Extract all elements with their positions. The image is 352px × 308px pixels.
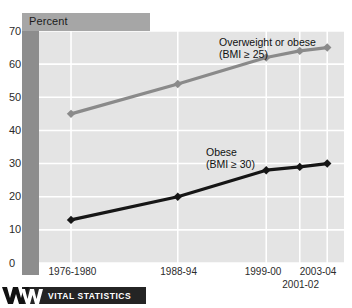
y-axis-tick-label: 50 — [9, 92, 39, 103]
y-axis-tick-label: 60 — [9, 59, 39, 70]
series-label-obese: Obese (BMI ≥ 30) — [206, 146, 255, 170]
chart-canvas — [39, 31, 344, 263]
y-axis-tick-label: 70 — [9, 26, 39, 37]
x-axis-tick-label: 1988-94 — [160, 266, 197, 277]
data-point-marker — [323, 159, 331, 167]
series-label-overweight-line1: Overweight or obese — [219, 36, 316, 48]
chart-figure: Percent 010203040506070 1976-19801988-94… — [0, 0, 352, 308]
y-axis-tick-label: 10 — [9, 224, 39, 235]
series-label-obese-line2: (BMI ≥ 30) — [206, 158, 255, 170]
data-point-marker — [323, 43, 331, 51]
plot-area — [39, 31, 344, 263]
y-axis-tick-label: 0 — [9, 258, 39, 269]
x-axis-tick-label: 2003-04 — [300, 266, 337, 277]
data-point-marker — [174, 80, 182, 88]
data-point-marker — [174, 193, 182, 201]
data-point-marker — [67, 110, 75, 118]
data-point-marker — [262, 166, 270, 174]
footer-brand-text: VITAL STATISTICS — [48, 291, 131, 301]
data-point-marker — [67, 216, 75, 224]
y-axis-tick-label: 20 — [9, 191, 39, 202]
y-axis-tick-label: 40 — [9, 125, 39, 136]
vital-statistics-w-logo-icon — [1, 285, 47, 306]
series-line-obese — [71, 164, 327, 220]
x-axis-tick-label: 1976-1980 — [49, 266, 97, 277]
series-label-overweight: Overweight or obese (BMI ≥ 25) — [219, 36, 316, 60]
gridlines — [39, 31, 344, 263]
x-axis-tick-label: 2001-02 — [282, 279, 319, 290]
series-label-overweight-line2: (BMI ≥ 25) — [219, 48, 316, 60]
series-label-obese-line1: Obese — [206, 146, 255, 158]
x-axis-tick-label: 1999-00 — [245, 266, 282, 277]
y-axis-ticks: 010203040506070 — [9, 31, 39, 263]
y-axis-tick-label: 30 — [9, 158, 39, 169]
